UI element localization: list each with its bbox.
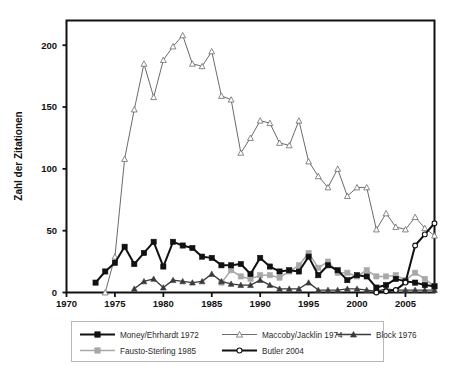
data-point-marker [383,274,388,279]
data-point-marker [267,282,273,287]
data-point-marker [277,269,282,274]
legend-label: Maccoby/Jacklin 1974 [262,331,343,340]
data-point-marker [95,348,100,353]
data-point-marker [306,254,311,259]
x-tick-label: 1995 [298,298,320,309]
data-point-marker [219,263,224,268]
data-point-marker [131,107,137,112]
data-point-marker [354,273,359,278]
x-tick-label: 1975 [104,298,126,309]
data-point-marker [267,264,272,269]
data-point-marker [345,270,350,275]
data-point-marker [141,61,147,66]
data-point-marker [199,254,204,259]
legend-label: Block 1976 [376,331,417,340]
data-point-marker [374,285,379,290]
series-line [105,35,434,292]
legend-item[interactable]: Maccoby/Jacklin 1974 [222,331,343,340]
legend-border [72,322,384,362]
y-tick-label: 50 [46,225,57,236]
y-axis-tick-labels: 050100150200 [41,40,57,298]
citation-chart-figure: 050100150200 197019751980198519901995200… [0,0,455,372]
legend-item[interactable]: Money/Ehrhardt 1972 [80,331,199,340]
legend-item[interactable]: Block 1976 [336,331,417,340]
data-point-marker [237,348,242,353]
data-point-marker [345,278,350,283]
x-tick-label: 2005 [395,298,417,309]
data-point-marker [122,244,127,249]
data-point-marker [151,239,156,244]
legend-label: Money/Ehrhardt 1972 [120,331,199,340]
data-point-marker [103,269,108,274]
data-point-marker [112,260,117,265]
data-point-marker [209,255,214,260]
data-point-marker [422,276,427,281]
data-point-marker [403,280,408,285]
data-point-marker [257,118,263,123]
data-point-marker [413,270,418,275]
x-tick-label: 2000 [346,298,367,309]
data-point-marker [374,274,379,279]
data-point-marker [248,135,254,140]
legend-label: Fausto-Sterling 1985 [120,347,196,356]
data-point-marker [277,275,282,280]
data-series-layer [93,32,437,295]
chart-canvas: 050100150200 197019751980198519901995200… [0,0,455,372]
data-point-marker [432,284,437,289]
data-point-marker [422,232,427,237]
data-point-marker [393,288,398,293]
x-axis-tick-labels: 19701975198019851990199520002005 [56,298,417,309]
data-point-marker [248,271,253,276]
y-tick-label: 150 [41,101,57,112]
data-point-marker [141,250,146,255]
data-point-marker [267,273,272,278]
data-point-marker [161,264,166,269]
data-point-marker [432,221,437,226]
data-point-marker [228,97,234,102]
x-tick-label: 1970 [56,298,77,309]
data-point-marker [306,280,312,285]
y-tick-label: 0 [52,287,57,298]
data-point-marker [316,273,321,278]
data-point-marker [248,276,253,281]
data-point-marker [413,280,418,285]
y-axis-title: Zahl der Zitationen [13,111,24,200]
data-point-marker [373,227,379,232]
chart-legend: Money/Ehrhardt 1972Maccoby/Jacklin 1974B… [72,322,417,362]
data-point-marker [209,49,215,54]
data-point-marker [335,268,340,273]
data-point-marker [132,261,137,266]
x-tick-label: 1990 [250,298,271,309]
data-point-marker [238,274,243,279]
data-point-marker [296,269,301,274]
legend-item[interactable]: Fausto-Sterling 1985 [80,347,196,356]
y-tick-label: 200 [41,40,57,51]
legend-label: Butler 2004 [262,347,304,356]
data-point-marker [180,243,185,248]
data-point-marker [151,94,157,99]
data-point-marker [422,282,427,287]
series-maccoby-jacklin-1974 [102,32,437,295]
data-point-marker [238,150,244,155]
data-point-marker [189,61,195,66]
data-point-marker [277,140,283,145]
y-tick-label: 100 [41,163,57,174]
data-point-marker [258,255,263,260]
data-point-marker [180,32,186,37]
data-point-marker [364,274,369,279]
data-point-marker [95,332,100,337]
data-point-marker [412,214,418,219]
data-point-marker [306,159,312,164]
data-point-marker [393,276,398,281]
data-point-marker [325,263,330,268]
data-point-marker [190,245,195,250]
x-tick-label: 1980 [153,298,174,309]
data-point-marker [93,280,98,285]
data-point-marker [384,289,389,294]
data-point-marker [315,173,321,178]
data-point-marker [209,271,215,276]
x-tick-label: 1985 [201,298,223,309]
data-point-marker [151,276,157,281]
legend-item[interactable]: Butler 2004 [222,347,304,356]
data-point-marker [229,263,234,268]
